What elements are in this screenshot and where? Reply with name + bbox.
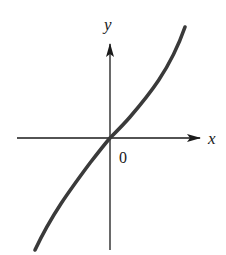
graph-canvas bbox=[0, 0, 226, 255]
origin-label: 0 bbox=[119, 150, 127, 166]
x-axis-label: x bbox=[208, 130, 216, 147]
y-axis-label: y bbox=[104, 16, 112, 33]
